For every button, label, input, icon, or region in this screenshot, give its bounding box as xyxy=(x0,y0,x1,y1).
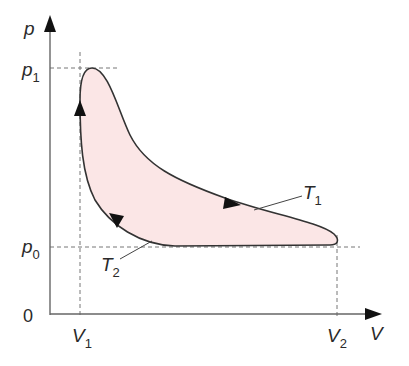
x-axis-label: V xyxy=(370,323,385,344)
p1-label: p1 xyxy=(21,59,40,85)
t2-label: T2 xyxy=(101,254,120,280)
origin-label: 0 xyxy=(23,306,33,326)
p0-label: p0 xyxy=(21,236,40,262)
t2-leader-line xyxy=(120,241,152,259)
x-axis-arrow-icon xyxy=(365,308,382,320)
y-axis-arrow-icon xyxy=(44,15,56,32)
t1-leader-line xyxy=(254,196,302,210)
y-axis-label: p xyxy=(23,18,35,39)
t1-label: T1 xyxy=(303,182,322,208)
v2-label: V2 xyxy=(327,325,347,351)
v1-label: V1 xyxy=(72,325,92,351)
pv-diagram: p V 0 p1 p0 V1 V2 T1 T2 xyxy=(0,0,409,366)
